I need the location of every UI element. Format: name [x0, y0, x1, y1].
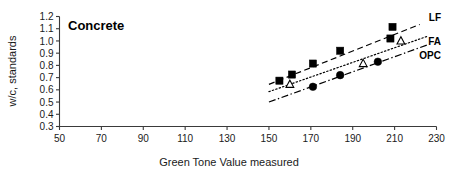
data-point-lf-2 [309, 60, 316, 67]
x-axis-tick-labels: 507090110130150170190210230 [54, 133, 445, 144]
x-tick-label: 210 [386, 133, 403, 144]
data-point-lf-5 [389, 23, 396, 30]
data-point-fa-2 [397, 37, 405, 44]
chart-canvas: 0.30.40.50.60.70.80.91.01.11.2 507090110… [0, 0, 458, 180]
data-point-lf-1 [288, 71, 295, 78]
concrete-scatter-chart: 0.30.40.50.60.70.80.91.01.11.2 507090110… [0, 0, 458, 180]
y-tick-label: 0.7 [40, 72, 54, 83]
data-point-lf-4 [387, 35, 394, 42]
x-tick-label: 150 [261, 133, 278, 144]
data-point-opc-0 [309, 83, 317, 91]
legend-label-opc: OPC [419, 50, 441, 61]
y-tick-label: 0.4 [40, 109, 54, 120]
y-tick-label: 0.3 [40, 121, 54, 132]
series-legend-group: LFFAOPC [419, 12, 441, 61]
data-markers-group [276, 23, 405, 90]
trend-lines-group [269, 24, 428, 102]
y-tick-label: 0.8 [40, 60, 54, 71]
y-tick-label: 0.5 [40, 97, 54, 108]
y-tick-label: 0.9 [40, 48, 54, 59]
x-tick-label: 70 [96, 133, 108, 144]
data-point-fa-1 [359, 59, 367, 66]
y-tick-label: 1.2 [40, 11, 54, 22]
data-point-lf-3 [337, 47, 344, 54]
axis-lines [60, 17, 437, 127]
x-tick-label: 130 [219, 133, 236, 144]
legend-label-lf: LF [429, 12, 441, 23]
x-tick-label: 110 [177, 133, 193, 144]
data-point-opc-2 [374, 58, 382, 66]
y-axis-title: w/c, standards [6, 35, 18, 107]
y-tick-label: 0.6 [40, 84, 54, 95]
data-point-opc-1 [336, 71, 344, 79]
y-axis-tick-labels: 0.30.40.50.60.70.80.91.01.11.2 [40, 11, 54, 132]
x-tick-label: 90 [138, 133, 150, 144]
panel-title: Concrete [68, 18, 124, 33]
x-axis-title: Green Tone Value measured [159, 156, 299, 168]
data-point-lf-0 [276, 77, 283, 84]
x-tick-label: 50 [54, 133, 66, 144]
x-tick-label: 190 [344, 133, 361, 144]
y-tick-label: 1.0 [40, 36, 54, 47]
y-tick-label: 1.1 [40, 23, 54, 34]
axes-group [60, 17, 437, 127]
legend-label-fa: FA [428, 36, 441, 47]
x-tick-label: 230 [428, 133, 445, 144]
x-tick-label: 170 [302, 133, 319, 144]
